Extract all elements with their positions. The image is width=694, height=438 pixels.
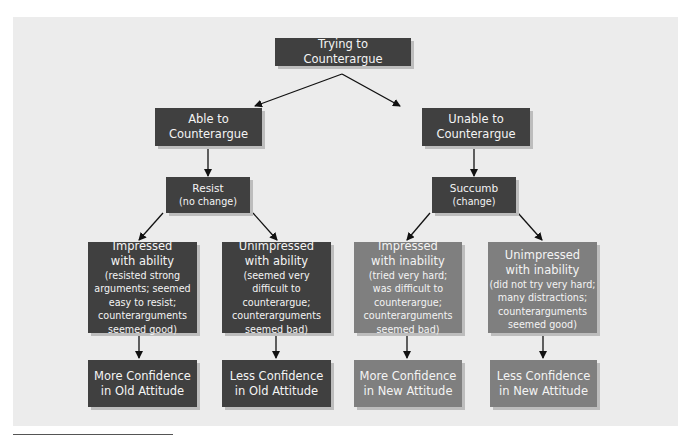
node-detail-line: (resisted strong xyxy=(105,269,180,282)
unable-label-line1: Unable to xyxy=(448,112,504,127)
node-detail-line: counterarguments xyxy=(364,309,453,322)
outcome-less-confidence-new: Less Confidence in New Attitude xyxy=(490,360,597,407)
able-label-line1: Able to xyxy=(188,112,229,127)
succumb-subtitle: (change) xyxy=(453,195,496,208)
node-detail-line: easy to resist; xyxy=(109,296,176,309)
arrow-resist-to-unimpressed xyxy=(253,213,277,240)
node-detail-line: seemed good) xyxy=(508,318,577,331)
node-title-line: Impressed xyxy=(378,239,438,254)
able-node: Able to Counterargue xyxy=(155,108,262,146)
resist-subtitle: (no change) xyxy=(179,195,237,208)
node-detail-line: was difficult to xyxy=(373,282,443,295)
outcome-line: in Old Attitude xyxy=(235,384,318,399)
outcome-line: in Old Attitude xyxy=(101,384,184,399)
node-title-line: with ability xyxy=(111,254,174,269)
node-detail-line: (did not try very hard; xyxy=(489,278,595,291)
arrow-resist-to-impressed xyxy=(139,213,163,240)
root-node: Trying to Counterargue xyxy=(275,38,411,66)
node-detail-line: arguments; seemed xyxy=(94,282,190,295)
node-detail-line: seemed bad) xyxy=(377,323,440,336)
unimpressed-with-ability-node: Unimpressed with ability (seemed very di… xyxy=(222,242,331,333)
outcome-more-confidence-new: More Confidence in New Attitude xyxy=(354,360,462,407)
outcome-less-confidence-old: Less Confidence in Old Attitude xyxy=(222,360,331,407)
arrow-succumb-to-unimpressed xyxy=(518,213,542,240)
node-detail-line: counterargue; xyxy=(374,296,442,309)
node-detail-line: seemed bad) xyxy=(245,323,308,336)
resist-title: Resist xyxy=(192,181,223,195)
node-detail-line: (tried very hard; xyxy=(369,269,447,282)
node-detail-line: counterarguments xyxy=(498,305,587,318)
impressed-with-inability-node: Impressed with inability (tried very har… xyxy=(354,242,462,333)
node-title-line: Unimpressed xyxy=(505,248,580,263)
impressed-with-ability-node: Impressed with ability (resisted strong … xyxy=(88,242,197,333)
node-detail-line: (seemed very xyxy=(243,269,309,282)
node-detail-line: counterarguments xyxy=(232,309,321,322)
node-title-line: with ability xyxy=(245,254,308,269)
node-detail-line: seemed good) xyxy=(108,323,177,336)
unable-node: Unable to Counterargue xyxy=(422,108,530,146)
outcome-line: Less Confidence xyxy=(497,369,591,384)
arrow-root-to-unable xyxy=(342,74,400,106)
node-title-line: Unimpressed xyxy=(239,239,314,254)
node-title-line: Impressed xyxy=(113,239,173,254)
outcome-line: More Confidence xyxy=(94,369,191,384)
outcome-more-confidence-old: More Confidence in Old Attitude xyxy=(88,360,197,407)
arrow-succumb-to-impressed xyxy=(407,213,430,240)
outcome-line: More Confidence xyxy=(360,369,457,384)
node-detail-line: difficult to xyxy=(252,282,301,295)
node-title-line: with inability xyxy=(506,263,580,278)
unable-label-line2: Counterargue xyxy=(436,127,515,142)
node-title-line: with inability xyxy=(371,254,445,269)
node-detail-line: counterargue; xyxy=(243,296,311,309)
outcome-line: in New Attitude xyxy=(364,384,453,399)
able-label-line2: Counterargue xyxy=(169,127,248,142)
root-label: Trying to Counterargue xyxy=(279,37,407,67)
footnote-rule xyxy=(13,434,173,435)
succumb-node: Succumb (change) xyxy=(432,177,516,213)
node-detail-line: counterarguments xyxy=(98,309,187,322)
outcome-line: Less Confidence xyxy=(230,369,324,384)
outcome-line: in New Attitude xyxy=(499,384,588,399)
succumb-title: Succumb xyxy=(450,181,498,195)
arrow-root-to-able xyxy=(255,74,342,106)
node-detail-line: many distractions; xyxy=(498,291,587,304)
unimpressed-with-inability-node: Unimpressed with inability (did not try … xyxy=(488,242,597,333)
resist-node: Resist (no change) xyxy=(166,177,250,213)
